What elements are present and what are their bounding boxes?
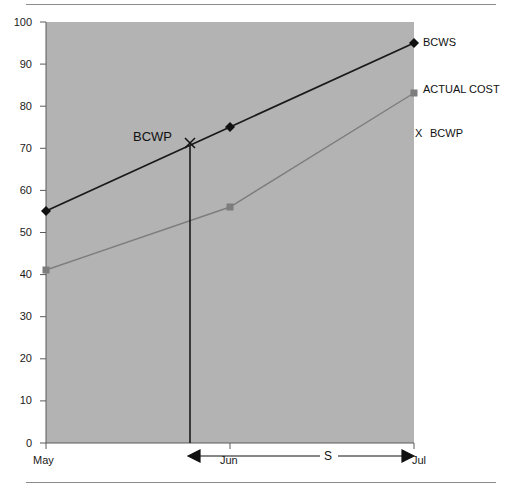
plot-background: [46, 22, 414, 443]
chart-figure: 100 90 80 70 60 50 40 30 20 10 0 May Jun…: [0, 0, 520, 503]
y-axis-ticks: [40, 22, 46, 443]
y-tick-label-50: 50: [2, 227, 32, 238]
legend-label-actual-cost: ACTUAL COST: [423, 84, 500, 95]
legend-marker-bcwp-x: X: [415, 128, 422, 139]
x-tick-label-jun: Jun: [220, 455, 238, 466]
y-tick-label-100: 100: [2, 17, 32, 28]
y-tick-label-80: 80: [2, 101, 32, 112]
bcwp-inplot-label: BCWP: [133, 130, 172, 143]
duration-span-label: S: [324, 450, 332, 462]
legend-label-bcws: BCWS: [423, 37, 456, 48]
legend-label-bcwp: BCWP: [430, 128, 463, 139]
y-tick-label-60: 60: [2, 185, 32, 196]
y-tick-label-0: 0: [2, 438, 32, 449]
y-tick-label-30: 30: [2, 311, 32, 322]
y-tick-label-10: 10: [2, 395, 32, 406]
y-tick-label-20: 20: [2, 353, 32, 364]
chart-plot-svg: [0, 0, 520, 503]
y-tick-label-90: 90: [2, 59, 32, 70]
x-tick-label-may: May: [33, 455, 54, 466]
x-tick-label-jul: Jul: [412, 455, 426, 466]
y-tick-label-40: 40: [2, 269, 32, 280]
x-axis-ticks: [46, 443, 414, 449]
y-tick-label-70: 70: [2, 143, 32, 154]
